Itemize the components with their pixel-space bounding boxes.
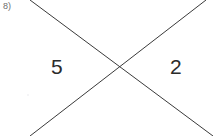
problem-number-label: 8) [3,1,11,12]
geometry-figure-canvas: 8) 5 2 [0,0,213,136]
page-artifact-speck [27,94,29,96]
angle-label-right: 2 [170,56,182,77]
angle-label-left: 5 [51,56,63,77]
